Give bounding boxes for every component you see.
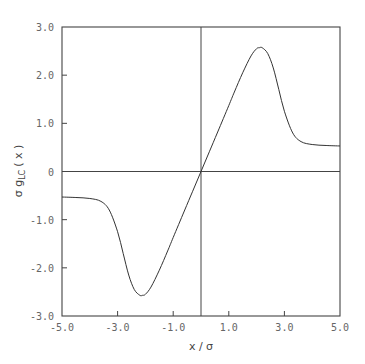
plot-area [62,27,340,316]
x-tick-label: 5.0 [331,322,349,333]
y-axis-label: σ gLC( x ) [12,145,27,198]
y-tick-label: -1.0 [30,215,54,226]
line-chart: 3.02.01.00-1.0-2.0-3.0 -5.0-3.0-1.01.03.… [0,0,365,364]
x-tick-label: -3.0 [106,322,130,333]
y-tick-label: -3.0 [30,311,54,322]
y-axis-ticks: 3.02.01.00-1.0-2.0-3.0 [30,22,67,322]
y-tick-label: 0 [48,167,54,178]
x-tick-label: -5.0 [50,322,74,333]
y-axis-label-main: σ g [12,180,25,197]
x-axis-ticks: -5.0-3.0-1.01.03.05.0 [50,311,349,333]
x-tick-label: 3.0 [275,322,293,333]
y-axis-label-tail: ( x ) [12,145,25,167]
x-tick-label: 1.0 [220,322,238,333]
x-tick-label: -1.0 [161,322,185,333]
y-axis-label-subscript: LC [18,169,27,179]
x-axis-label: x / σ [189,340,213,353]
y-tick-label: -2.0 [30,263,54,274]
y-tick-label: 1.0 [36,118,54,129]
y-tick-label: 3.0 [36,22,54,33]
y-tick-label: 2.0 [36,70,54,81]
